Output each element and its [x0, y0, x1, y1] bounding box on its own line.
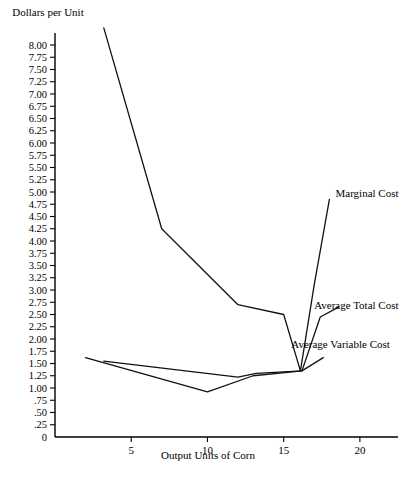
- y-tick-label: 3.50: [29, 260, 47, 271]
- y-tick-label: 1.50: [29, 358, 47, 369]
- y-tick-label: .25: [34, 419, 47, 430]
- y-tick-label: 1.00: [29, 383, 47, 394]
- y-tick-label: 2.00: [29, 334, 47, 345]
- curve-average-variable-cost: [104, 358, 324, 378]
- y-tick-label: 5.75: [29, 150, 47, 161]
- y-tick-label: 7.25: [29, 76, 47, 87]
- y-tick-label: 4.00: [29, 236, 47, 247]
- curve-marginal-cost: [104, 28, 330, 371]
- y-tick-label: 5.25: [29, 174, 47, 185]
- y-tick-label: 7.00: [29, 89, 47, 100]
- y-tick-label: 3.25: [29, 272, 47, 283]
- y-tick-label: 8.00: [29, 40, 47, 51]
- y-tick-label: 5.00: [29, 187, 47, 198]
- y-tick-label: .50: [34, 407, 47, 418]
- cost-curve-chart: Dollars per Unit 0.25.50.751.001.251.501…: [0, 0, 416, 477]
- y-tick-label: 4.50: [29, 211, 47, 222]
- x-axis-title: Output Units of Corn: [0, 449, 416, 461]
- y-tick-label: 2.75: [29, 297, 47, 308]
- y-tick-label: 2.50: [29, 309, 47, 320]
- y-tick-label: 3.00: [29, 285, 47, 296]
- y-tick-label: 6.50: [29, 113, 47, 124]
- y-axis-ticks: 0.25.50.751.001.251.501.752.002.252.502.…: [29, 40, 55, 443]
- curve-label-marginal-cost: Marginal Cost: [335, 187, 398, 199]
- y-tick-label: .75: [34, 395, 47, 406]
- y-tick-label: 7.50: [29, 64, 47, 75]
- y-tick-label: 3.75: [29, 248, 47, 259]
- y-tick-label: 4.25: [29, 223, 47, 234]
- y-tick-label: 5.50: [29, 162, 47, 173]
- plot-area: 0.25.50.751.001.251.501.752.002.252.502.…: [0, 0, 416, 477]
- y-tick-label: 0: [42, 432, 47, 443]
- y-tick-label: 6.25: [29, 125, 47, 136]
- y-tick-label: 7.75: [29, 52, 47, 63]
- y-tick-label: 1.25: [29, 370, 47, 381]
- y-tick-label: 6.75: [29, 101, 47, 112]
- y-tick-label: 1.75: [29, 346, 47, 357]
- y-tick-label: 4.75: [29, 199, 47, 210]
- curve-label-average-total-cost: Average Total Cost: [314, 299, 398, 311]
- y-tick-label: 2.25: [29, 321, 47, 332]
- y-tick-label: 6.00: [29, 138, 47, 149]
- curve-label-average-variable-cost: Average Variable Cost: [291, 338, 390, 350]
